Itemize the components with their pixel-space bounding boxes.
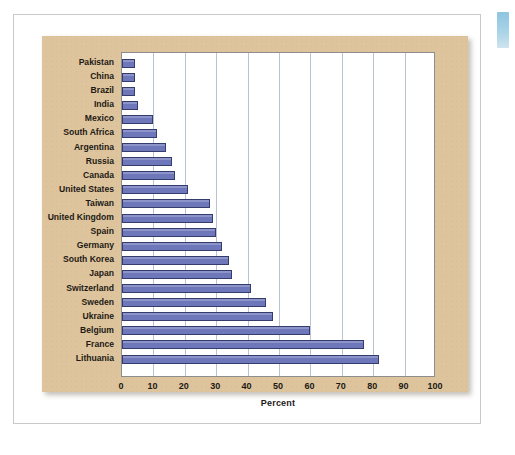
bar [122, 214, 213, 223]
bar [122, 157, 172, 166]
x-tick-label: 90 [399, 381, 409, 391]
bar [122, 143, 166, 152]
bar-row [122, 211, 434, 225]
bar-row [122, 197, 434, 211]
bar [122, 185, 188, 194]
category-label: South Korea [42, 252, 118, 266]
x-tick-label: 20 [179, 381, 189, 391]
category-label: Brazil [42, 83, 118, 97]
bar-row [122, 98, 434, 112]
bar [122, 312, 273, 321]
category-label: Canada [42, 168, 118, 182]
bar-row [122, 169, 434, 183]
x-axis-title: Percent [121, 398, 435, 408]
category-label: Spain [42, 224, 118, 238]
category-axis-labels: PakistanChinaBrazilIndiaMexicoSouth Afri… [42, 52, 118, 377]
category-label: Belgium [42, 323, 118, 337]
bar-row [122, 352, 434, 366]
bar [122, 199, 210, 208]
bar-row [122, 282, 434, 296]
bar [122, 59, 135, 68]
bar-row [122, 310, 434, 324]
bar-row [122, 112, 434, 126]
category-label: Mexico [42, 111, 118, 125]
bar [122, 87, 135, 96]
bar-row [122, 253, 434, 267]
bar [122, 355, 379, 364]
bar-row [122, 126, 434, 140]
category-label: Argentina [42, 140, 118, 154]
bar-row [122, 267, 434, 281]
x-tick-label: 0 [118, 381, 123, 391]
bar [122, 73, 135, 82]
bar [122, 298, 266, 307]
x-tick-label: 50 [273, 381, 283, 391]
x-axis-tick-labels: 0102030405060708090100 [121, 381, 435, 395]
category-label: United States [42, 182, 118, 196]
x-tick-label: 40 [242, 381, 252, 391]
bar [122, 326, 310, 335]
bar [122, 284, 251, 293]
category-label: United Kingdom [42, 210, 118, 224]
category-label: Ukraine [42, 309, 118, 323]
category-label: Switzerland [42, 281, 118, 295]
category-label: China [42, 69, 118, 83]
bar-row [122, 84, 434, 98]
category-label: Russia [42, 154, 118, 168]
x-tick-label: 10 [147, 381, 157, 391]
x-tick-label: 70 [336, 381, 346, 391]
bar-row [122, 70, 434, 84]
bar-row [122, 239, 434, 253]
category-label: Japan [42, 266, 118, 280]
bar-row [122, 56, 434, 70]
bar-row [122, 296, 434, 310]
bar-row [122, 225, 434, 239]
category-label: India [42, 97, 118, 111]
bar-row [122, 155, 434, 169]
bar [122, 340, 364, 349]
bar [122, 171, 175, 180]
chart-panel: PakistanChinaBrazilIndiaMexicoSouth Afri… [42, 36, 468, 392]
bar-series [122, 53, 434, 376]
bar [122, 101, 138, 110]
bar-row [122, 324, 434, 338]
category-label: Sweden [42, 295, 118, 309]
bar [122, 270, 232, 279]
x-tick-label: 80 [367, 381, 377, 391]
bar [122, 129, 157, 138]
category-label: Lithuania [42, 351, 118, 365]
category-label: Pakistan [42, 55, 118, 69]
bar [122, 228, 216, 237]
page-edge-tab-icon [497, 12, 509, 48]
bar [122, 115, 153, 124]
bar-row [122, 141, 434, 155]
bar [122, 256, 229, 265]
bar-row [122, 338, 434, 352]
category-label: France [42, 337, 118, 351]
x-tick-label: 60 [304, 381, 314, 391]
x-tick-label: 30 [210, 381, 220, 391]
bar-row [122, 183, 434, 197]
plot-area [121, 52, 435, 377]
category-label: Germany [42, 238, 118, 252]
bar [122, 242, 222, 251]
category-label: Taiwan [42, 196, 118, 210]
x-tick-label: 100 [427, 381, 442, 391]
category-label: South Africa [42, 125, 118, 139]
